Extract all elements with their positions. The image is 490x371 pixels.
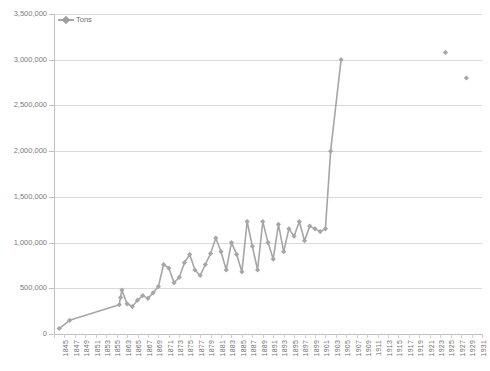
data-series-tons	[54, 14, 482, 334]
x-tick-label: 1903	[334, 340, 341, 356]
x-tick-label: 1923	[438, 340, 445, 356]
data-point-marker	[338, 57, 343, 62]
data-point-marker	[250, 244, 255, 249]
legend-label-tons: Tons	[76, 16, 92, 24]
data-point-marker	[119, 288, 124, 293]
y-tick-mark	[49, 60, 54, 61]
x-tick-label: 1881	[219, 340, 226, 356]
x-tick-label: 1875	[187, 340, 194, 356]
x-tick-label: 1885	[240, 340, 247, 356]
y-tick-mark	[49, 197, 54, 198]
data-point-marker	[234, 252, 239, 257]
x-tick-label: 1845	[62, 340, 69, 356]
x-tick-label: 1879	[208, 340, 215, 356]
x-tick-label: 1899	[313, 340, 320, 356]
series-line-tons	[59, 60, 341, 329]
x-tick-mark	[367, 334, 368, 338]
x-tick-mark	[419, 334, 420, 338]
x-tick-mark	[451, 334, 452, 338]
x-tick-label: 1901	[323, 340, 330, 356]
x-tick-label: 1893	[281, 340, 288, 356]
y-tick-mark	[49, 151, 54, 152]
data-point-marker	[328, 149, 333, 154]
x-tick-mark	[190, 334, 191, 338]
x-tick-mark	[305, 334, 306, 338]
x-tick-mark	[336, 334, 337, 338]
x-tick-label: 1847	[73, 340, 80, 356]
x-tick-mark	[252, 334, 253, 338]
x-tick-mark	[200, 334, 201, 338]
x-tick-mark	[273, 334, 274, 338]
x-tick-mark	[325, 334, 326, 338]
x-tick-mark	[284, 334, 285, 338]
x-tick-label: 1891	[271, 340, 278, 356]
data-point-marker	[265, 240, 270, 245]
y-tick-label: 3,500,000	[0, 9, 47, 18]
x-tick-label: 1865	[135, 340, 142, 356]
x-tick-label: 1849	[83, 340, 90, 356]
x-tick-mark	[106, 334, 107, 338]
x-tick-mark	[409, 334, 410, 338]
x-tick-mark	[96, 334, 97, 338]
y-tick-mark	[49, 288, 54, 289]
x-tick-mark	[398, 334, 399, 338]
x-tick-label: 1855	[114, 340, 121, 356]
x-tick-label: 1895	[292, 340, 299, 356]
y-tick-mark	[49, 105, 54, 106]
y-tick-mark	[49, 14, 54, 15]
x-tick-mark	[158, 334, 159, 338]
x-tick-label: 1897	[302, 340, 309, 356]
x-tick-mark	[430, 334, 431, 338]
x-tick-mark	[85, 334, 86, 338]
x-tick-label: 1911	[375, 340, 382, 356]
x-tick-label: 1863	[125, 340, 132, 356]
x-tick-mark	[64, 334, 65, 338]
plot-area	[54, 14, 482, 334]
x-tick-mark	[378, 334, 379, 338]
x-tick-mark	[315, 334, 316, 338]
data-point-marker	[245, 219, 250, 224]
x-tick-mark	[221, 334, 222, 338]
data-point-marker	[239, 269, 244, 274]
x-tick-label: 1889	[261, 340, 268, 356]
x-tick-label: 1921	[428, 340, 435, 356]
data-point-marker	[224, 267, 229, 272]
y-tick-label: 2,000,000	[0, 146, 47, 155]
x-tick-label: 1919	[417, 340, 424, 356]
x-tick-mark	[472, 334, 473, 338]
data-point-marker	[297, 219, 302, 224]
data-point-marker	[271, 256, 276, 261]
x-tick-mark	[169, 334, 170, 338]
x-tick-mark	[138, 334, 139, 338]
y-tick-label: 500,000	[0, 283, 47, 292]
data-point-marker	[443, 50, 448, 55]
x-tick-mark	[263, 334, 264, 338]
x-tick-label: 1927	[459, 340, 466, 356]
data-point-marker	[229, 240, 234, 245]
x-tick-mark	[179, 334, 180, 338]
x-tick-label: 1853	[104, 340, 111, 356]
x-tick-label: 1867	[146, 340, 153, 356]
x-tick-label: 1931	[480, 340, 487, 356]
x-tick-label: 1851	[94, 340, 101, 356]
x-tick-label: 1883	[229, 340, 236, 356]
y-tick-label: 0	[0, 329, 47, 338]
data-point-marker	[276, 222, 281, 227]
x-tick-mark	[231, 334, 232, 338]
x-tick-label: 1929	[469, 340, 476, 356]
x-tick-mark	[117, 334, 118, 338]
data-point-marker	[213, 235, 218, 240]
x-tick-mark	[54, 334, 55, 338]
y-axis-line	[54, 14, 55, 334]
x-tick-label: 1873	[177, 340, 184, 356]
legend-line-marker-icon	[58, 19, 74, 21]
x-tick-mark	[388, 334, 389, 338]
x-axis-line	[54, 334, 482, 335]
x-tick-mark	[75, 334, 76, 338]
legend: Tons	[58, 16, 92, 24]
data-point-marker	[117, 302, 122, 307]
data-point-marker	[218, 249, 223, 254]
x-tick-label: 1925	[448, 340, 455, 356]
x-tick-label: 1907	[355, 340, 362, 356]
x-tick-label: 1913	[386, 340, 393, 356]
